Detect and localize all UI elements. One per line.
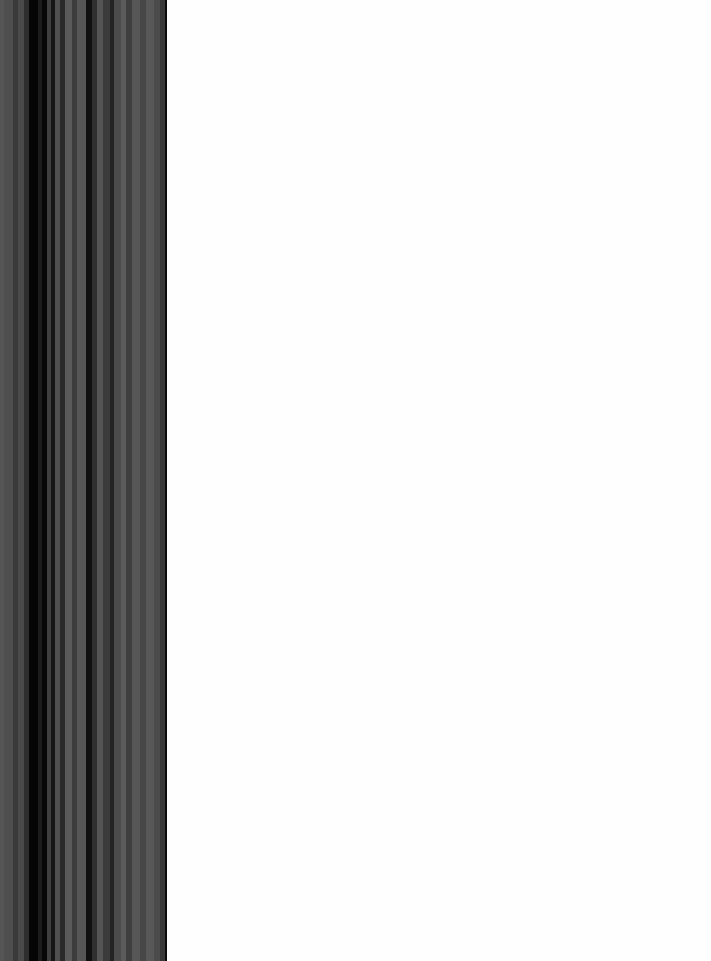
- stripe-band: [4, 0, 13, 961]
- panel-edge-divider: [165, 0, 167, 961]
- screen-root: [0, 0, 711, 961]
- blank-canvas[interactable]: [167, 0, 711, 961]
- striped-panel[interactable]: [0, 0, 167, 961]
- content-pane: [0, 0, 711, 961]
- stripe-band: [114, 0, 121, 961]
- stripe-band: [77, 0, 86, 961]
- stripe-band: [146, 0, 154, 961]
- stripe-band: [29, 0, 38, 961]
- stripe-band: [132, 0, 140, 961]
- stripe-band: [65, 0, 72, 961]
- stripe-band: [103, 0, 110, 961]
